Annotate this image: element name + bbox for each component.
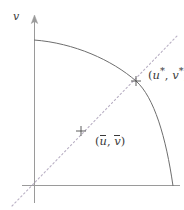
mean-label-u-bar: u bbox=[100, 136, 107, 148]
mean-label-close-paren: ) bbox=[121, 134, 126, 148]
optimum-label-u: u bbox=[153, 68, 160, 82]
diagram-canvas bbox=[0, 0, 184, 210]
mean-label-comma: , bbox=[107, 134, 114, 148]
diagonal-ray bbox=[12, 36, 177, 206]
mean-label-v-bar: v bbox=[114, 136, 121, 148]
mean-marker bbox=[76, 126, 86, 136]
frontier-curve bbox=[34, 40, 173, 186]
mean-point-label: (u, v) bbox=[95, 136, 125, 148]
optimum-point-label: (u*, v*) bbox=[148, 70, 184, 82]
production-frontier-diagram: v (u*, v*) (u, v) bbox=[0, 0, 184, 210]
y-axis-label: v bbox=[13, 11, 19, 22]
